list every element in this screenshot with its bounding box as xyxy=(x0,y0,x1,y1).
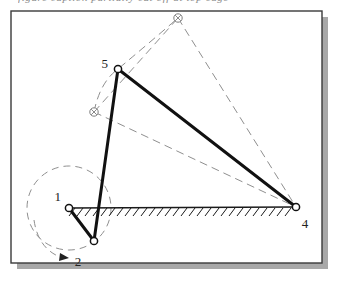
joint-label-1: 1 xyxy=(55,189,62,204)
ghost-joint-left xyxy=(90,108,98,116)
joint-5-marker xyxy=(114,65,121,72)
ground-line xyxy=(69,207,296,208)
joint-label-2: 2 xyxy=(75,254,82,269)
ghost-joint-top xyxy=(174,14,182,22)
joint-2-marker xyxy=(90,237,97,244)
joint-1-marker xyxy=(65,204,72,211)
figure-frame xyxy=(11,11,322,263)
joint-4-marker xyxy=(292,203,299,210)
joint-label-5: 5 xyxy=(102,56,109,71)
joint-label-4: 4 xyxy=(302,216,309,231)
figure-canvas: figure caption partially cut off at top … xyxy=(0,0,338,281)
linkage-diagram-svg: 1 2 4 5 xyxy=(0,0,338,281)
